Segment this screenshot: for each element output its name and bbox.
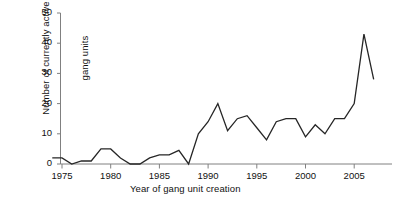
y-axis-title-line1: Number of currently active [39, 0, 52, 133]
x-tick-label: 2000 [286, 170, 326, 181]
line-chart: 01020304050 1975198019851990199520002005… [0, 0, 395, 203]
x-tick-label: 2005 [334, 170, 374, 181]
x-tick-label: 1980 [91, 170, 131, 181]
y-tick-label: 0 [32, 157, 52, 168]
x-tick-label: 1975 [42, 170, 82, 181]
x-tick-label: 1995 [237, 170, 277, 181]
x-axis-title: Year of gang unit creation [130, 183, 241, 194]
x-tick-label: 1990 [188, 170, 228, 181]
x-tick-label: 1985 [139, 170, 179, 181]
y-axis-title-line2: gang units [78, 0, 91, 133]
y-axis-title: Number of currently active gang units [13, 0, 117, 133]
